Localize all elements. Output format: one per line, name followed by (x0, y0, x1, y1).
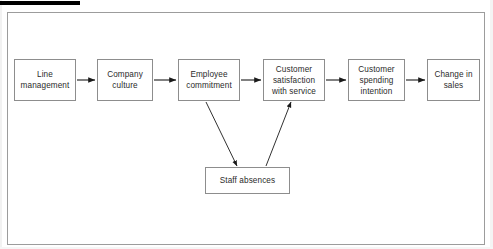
screenshot-root: Line managementCompany cultureEmployee c… (0, 0, 493, 249)
node-line-management[interactable]: Line management (14, 59, 76, 101)
node-employee-commitment[interactable]: Employee commitment (178, 59, 240, 101)
top-black-marker-bar (0, 1, 80, 5)
node-customer-satisfaction-with-service[interactable]: Customer satisfaction with service (263, 59, 325, 101)
node-change-in-sales[interactable]: Change in sales (427, 59, 480, 101)
node-company-culture[interactable]: Company culture (97, 59, 153, 101)
node-customer-spending-intention[interactable]: Customer spending intention (348, 59, 405, 101)
node-staff-absences[interactable]: Staff absences (205, 167, 290, 194)
diagram-frame (7, 12, 485, 245)
page-edge-left (0, 0, 2, 249)
